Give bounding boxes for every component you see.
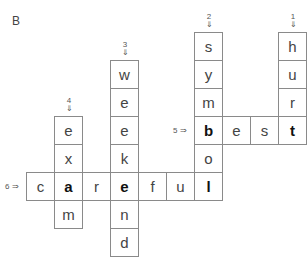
- crossword-cell[interactable]: m: [54, 200, 83, 229]
- down-arrow-icon: ⇓: [55, 105, 83, 112]
- crossword-cell[interactable]: c: [26, 172, 55, 201]
- crossword-cell[interactable]: e: [54, 116, 83, 145]
- crossword-cell[interactable]: e: [222, 116, 251, 145]
- crossword-cell[interactable]: r: [82, 172, 111, 201]
- down-arrow-icon: ⇓: [111, 49, 139, 56]
- down-arrow-icon: ⇓: [195, 21, 223, 28]
- crossword-cell[interactable]: d: [110, 228, 139, 257]
- crossword-cell[interactable]: u: [166, 172, 195, 201]
- crossword-cell[interactable]: m: [194, 88, 223, 117]
- clue-number-down: 3⇓: [111, 41, 139, 56]
- crossword-cell[interactable]: u: [278, 60, 307, 89]
- down-arrow-icon: ⇓: [279, 21, 307, 28]
- section-label: B: [12, 14, 20, 28]
- clue-number-down: 4⇓: [55, 97, 83, 112]
- clue-number-down: 1⇓: [279, 13, 307, 28]
- crossword-cell[interactable]: k: [110, 144, 139, 173]
- crossword-cell[interactable]: s: [194, 32, 223, 61]
- right-arrow-icon: ⇒: [9, 182, 18, 191]
- crossword-cell[interactable]: e: [110, 172, 139, 201]
- crossword-cell[interactable]: l: [194, 172, 223, 201]
- crossword-cell[interactable]: e: [110, 116, 139, 145]
- clue-number-down: 2⇓: [195, 13, 223, 28]
- clue-number-across: 5 ⇒: [173, 126, 187, 135]
- crossword-cell[interactable]: y: [194, 60, 223, 89]
- crossword-cell[interactable]: a: [54, 172, 83, 201]
- crossword-cell[interactable]: f: [138, 172, 167, 201]
- crossword-cell[interactable]: t: [278, 116, 307, 145]
- crossword-cell[interactable]: h: [278, 32, 307, 61]
- crossword-cell[interactable]: e: [110, 88, 139, 117]
- right-arrow-icon: ⇒: [177, 126, 186, 135]
- crossword-cell[interactable]: b: [194, 116, 223, 145]
- crossword-cell[interactable]: o: [194, 144, 223, 173]
- clue-number-across: 6 ⇒: [5, 182, 19, 191]
- crossword-cell[interactable]: w: [110, 60, 139, 89]
- crossword-cell[interactable]: s: [250, 116, 279, 145]
- crossword-cell[interactable]: r: [278, 88, 307, 117]
- crossword-cell[interactable]: n: [110, 200, 139, 229]
- crossword-cell[interactable]: x: [54, 144, 83, 173]
